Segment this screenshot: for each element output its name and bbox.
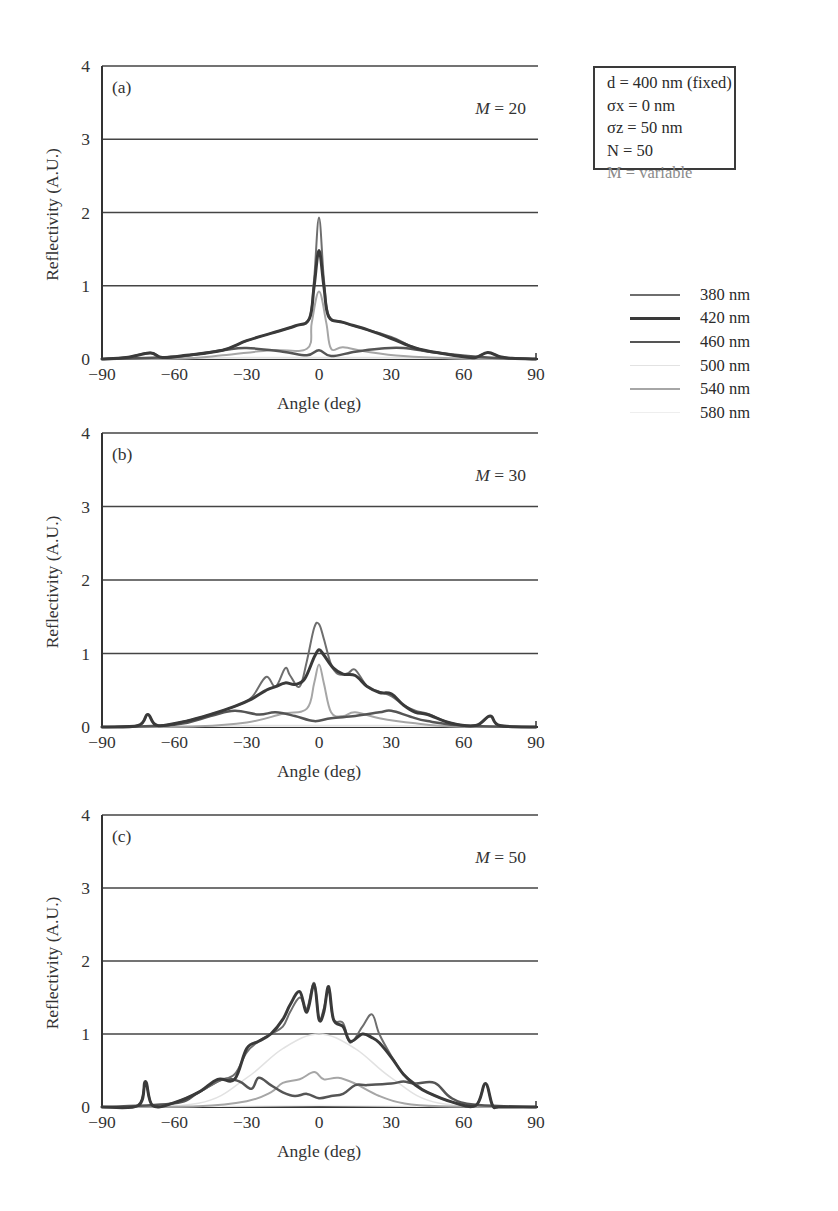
series-line-460-nm [102,1078,536,1107]
legend-item-500: 500 nm [630,354,770,378]
y-tick-label: 3 [81,497,90,517]
series-line-380-nm [102,623,536,727]
param-n: N = 50 [607,140,734,163]
y-tick-label: 2 [81,203,90,223]
legend-label: 380 nm [700,285,750,305]
x-tick-label: 90 [527,364,545,384]
x-tick-label: 0 [315,364,324,384]
legend-item-380: 380 nm [630,283,770,307]
x-tick-label: −30 [233,732,261,752]
x-tick-label: 30 [383,1112,401,1132]
x-axis-label: Angle (deg) [277,393,361,413]
y-axis-label: Reflectivity (A.U.) [42,896,62,1029]
y-tick-label: 1 [81,644,90,664]
legend-label: 420 nm [700,308,750,328]
y-tick-label: 2 [81,951,90,971]
y-tick-label: 4 [81,423,90,443]
panel-label: (a) [112,77,132,97]
y-axis-label: Reflectivity (A.U.) [42,148,62,281]
y-tick-label: 2 [81,570,90,590]
parameter-box: d = 400 nm (fixed) σx = 0 nm σz = 50 nm … [593,66,736,170]
x-tick-label: 0 [315,732,324,752]
x-tick-label: 30 [383,732,401,752]
x-tick-label: −90 [88,364,116,384]
series-line-420-nm [102,984,536,1108]
series-line-420-nm [102,650,536,727]
series-line-420-nm [102,251,536,359]
param-d: d = 400 nm (fixed) [607,72,734,95]
series-line-540-nm [102,665,536,728]
y-axis-label: Reflectivity (A.U.) [42,515,62,648]
y-tick-label: 4 [81,56,90,76]
panel-label: (b) [112,444,133,464]
x-tick-label: 60 [455,732,473,752]
series-line-540-nm [102,1072,536,1107]
m-value-annotation: M = 30 [474,465,526,485]
panel-label: (c) [112,826,132,846]
x-tick-label: 0 [315,1112,324,1132]
param-sigma-z: σz = 50 nm [607,117,734,140]
y-tick-label: 1 [81,1024,90,1044]
x-tick-label: 60 [455,1112,473,1132]
legend-swatch-icon [630,365,680,366]
legend-swatch-icon [630,294,680,296]
x-axis-label: Angle (deg) [277,761,361,781]
legend-item-420: 420 nm [630,307,770,331]
x-tick-label: −90 [88,1112,116,1132]
legend-label: 460 nm [700,332,750,352]
x-tick-label: −30 [233,364,261,384]
y-tick-label: 3 [81,129,90,149]
m-value-annotation: M = 20 [474,98,526,118]
legend-swatch-icon [630,388,680,390]
y-tick-label: 1 [81,276,90,296]
series-line-500-nm [102,1034,536,1107]
x-tick-label: 30 [383,364,401,384]
legend: 380 nm 420 nm 460 nm 500 nm 540 nm 580 n… [630,283,770,425]
m-value-annotation: M = 50 [474,847,526,867]
legend-label: 580 nm [700,403,750,423]
legend-item-580: 580 nm [630,401,770,425]
y-tick-label: 3 [81,878,90,898]
x-tick-label: −90 [88,732,116,752]
legend-label: 500 nm [700,356,750,376]
x-axis-label: Angle (deg) [277,1141,361,1161]
legend-item-540: 540 nm [630,377,770,401]
x-tick-label: −60 [161,1112,189,1132]
series-line-380-nm [102,983,536,1108]
y-tick-label: 4 [81,805,90,825]
x-tick-label: −60 [161,732,189,752]
series-line-540-nm [102,292,536,359]
legend-swatch-icon [630,341,680,343]
legend-swatch-icon [630,317,680,320]
x-tick-label: 90 [527,732,545,752]
legend-swatch-icon [630,412,680,413]
legend-item-460: 460 nm [630,330,770,354]
legend-label: 540 nm [700,379,750,399]
panel-a-chart: 01234−90−60−300306090Angle (deg)Reflecti… [42,56,545,413]
series-line-380-nm [102,218,536,359]
param-sigma-x: σx = 0 nm [607,95,734,118]
param-m: M = variable [607,162,734,185]
x-tick-label: −60 [161,364,189,384]
x-tick-label: 90 [527,1112,545,1132]
x-tick-label: 60 [455,364,473,384]
panel-b-chart: 01234−90−60−300306090Angle (deg)Reflecti… [42,423,545,781]
x-tick-label: −30 [233,1112,261,1132]
panel-c-chart: 01234−90−60−300306090Angle (deg)Reflecti… [42,805,545,1161]
